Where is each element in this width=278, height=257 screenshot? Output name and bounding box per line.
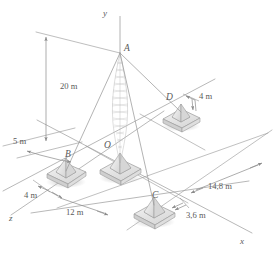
dim-12m-arrow	[97, 211, 108, 215]
dimension-4m-right	[183, 94, 199, 111]
dim-4m-left-arrow-b	[52, 192, 62, 198]
point-label-B: B	[65, 150, 71, 160]
proj-line-5m-lower	[17, 142, 82, 158]
point-label-D: D	[166, 93, 173, 103]
axis-label-y: y	[103, 9, 107, 18]
dim-4m-right-shaft	[183, 94, 199, 101]
ground-line-diag-a	[57, 133, 268, 208]
guy-wire-ad	[120, 53, 181, 112]
axis-label-z: z	[9, 214, 13, 223]
axis-label-x: x	[240, 237, 244, 246]
diagram-vector-layer	[0, 0, 278, 257]
dimension-label-5m: 5 m	[13, 137, 26, 146]
dim-4m-right-ext	[195, 100, 196, 111]
dimension-36m	[172, 198, 189, 210]
diagram-canvas: A O B C D y x z 20 m 5 m 4 m 12 m 4 m 14…	[0, 0, 278, 257]
point-label-O: O	[104, 141, 111, 151]
dimension-label-4m-left: 4 m	[24, 191, 37, 200]
dimension-label-12m: 12 m	[66, 208, 83, 217]
dimension-label-36m: 3,6 m	[186, 211, 206, 220]
dim-148m-arrow-far	[250, 163, 262, 168]
dimension-label-4m-right: 4 m	[199, 92, 212, 101]
point-label-C: C	[152, 191, 158, 201]
point-label-A: A	[124, 44, 130, 54]
lattice-mast	[112, 53, 128, 163]
dim-4m-right-arrow-b	[192, 99, 193, 110]
dim-5m-shaft	[40, 155, 60, 160]
proj-line-apex	[36, 32, 120, 53]
guy-wire-ab	[66, 53, 120, 171]
dimension-label-20m: 20 m	[60, 82, 77, 91]
dim-4m-right-arrow-a	[186, 96, 195, 100]
dimension-label-148m: 14,8 m	[208, 182, 232, 191]
